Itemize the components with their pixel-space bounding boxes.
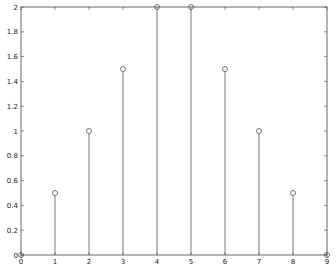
y-tick-label: 1.6	[7, 53, 19, 61]
axes-box	[21, 7, 327, 255]
y-tick-label: 0.2	[7, 227, 18, 235]
y-tick-label: 1	[14, 128, 18, 136]
y-tick-label: 2	[14, 4, 18, 12]
x-tick-label: 3	[121, 258, 125, 266]
y-tick-label: 0.6	[7, 177, 19, 185]
x-tick-label: 1	[53, 258, 57, 266]
y-tick-label: 0	[14, 252, 18, 260]
x-tick-label: 4	[155, 258, 160, 266]
x-tick-label: 5	[189, 258, 193, 266]
y-tick-label: 1.8	[7, 28, 18, 36]
x-tick-label: 7	[257, 258, 261, 266]
y-tick-label: 0.8	[7, 152, 18, 160]
stem-plot: 0123456789 00.20.40.60.811.21.41.61.82	[0, 0, 336, 269]
plot-area	[21, 7, 327, 255]
y-tick-label: 1.2	[7, 103, 18, 111]
x-tick-label: 9	[325, 258, 329, 266]
x-tick-label: 2	[87, 258, 91, 266]
y-tick-label: 1.4	[7, 78, 19, 86]
x-tick-label: 8	[291, 258, 295, 266]
y-tick-label: 0.4	[7, 202, 19, 210]
x-tick-label: 0	[19, 258, 23, 266]
x-tick-label: 6	[223, 258, 228, 266]
